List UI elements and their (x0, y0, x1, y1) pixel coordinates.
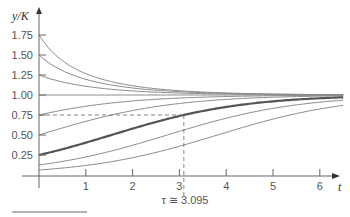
x-axis-arrow-icon (332, 173, 340, 179)
curves (39, 35, 343, 170)
y-axis-label: y/K (11, 9, 30, 23)
annotations (39, 115, 184, 196)
y-tick-label: 1.75 (12, 29, 33, 41)
y-tick-label: 0.75 (12, 109, 33, 121)
x-tick-label: 1 (83, 180, 89, 192)
x-tick-label: 4 (223, 180, 229, 192)
y-tick-label: 1.25 (12, 69, 33, 81)
curve-y0=1.50 (39, 55, 343, 95)
y-tick-label: 0.25 (12, 149, 33, 161)
x-axis-label: t (338, 180, 342, 194)
x-tick-label: 6 (317, 180, 323, 192)
y-tick-label: 0.50 (12, 129, 33, 141)
y-tick-label: 1.50 (12, 49, 33, 61)
x-tick-label: 3 (176, 180, 182, 192)
tau-annotation: τ ≅ 3.095 (162, 194, 209, 206)
x-tick-label: 5 (270, 180, 276, 192)
logistic-chart: 0.250.500.751.001.251.501.75123456 y/K t… (0, 0, 350, 217)
y-tick-label: 1.00 (12, 89, 33, 101)
curve-y0=0.125 (39, 100, 343, 165)
x-tick-label: 2 (130, 180, 136, 192)
y-axis-arrow-icon (36, 7, 42, 14)
